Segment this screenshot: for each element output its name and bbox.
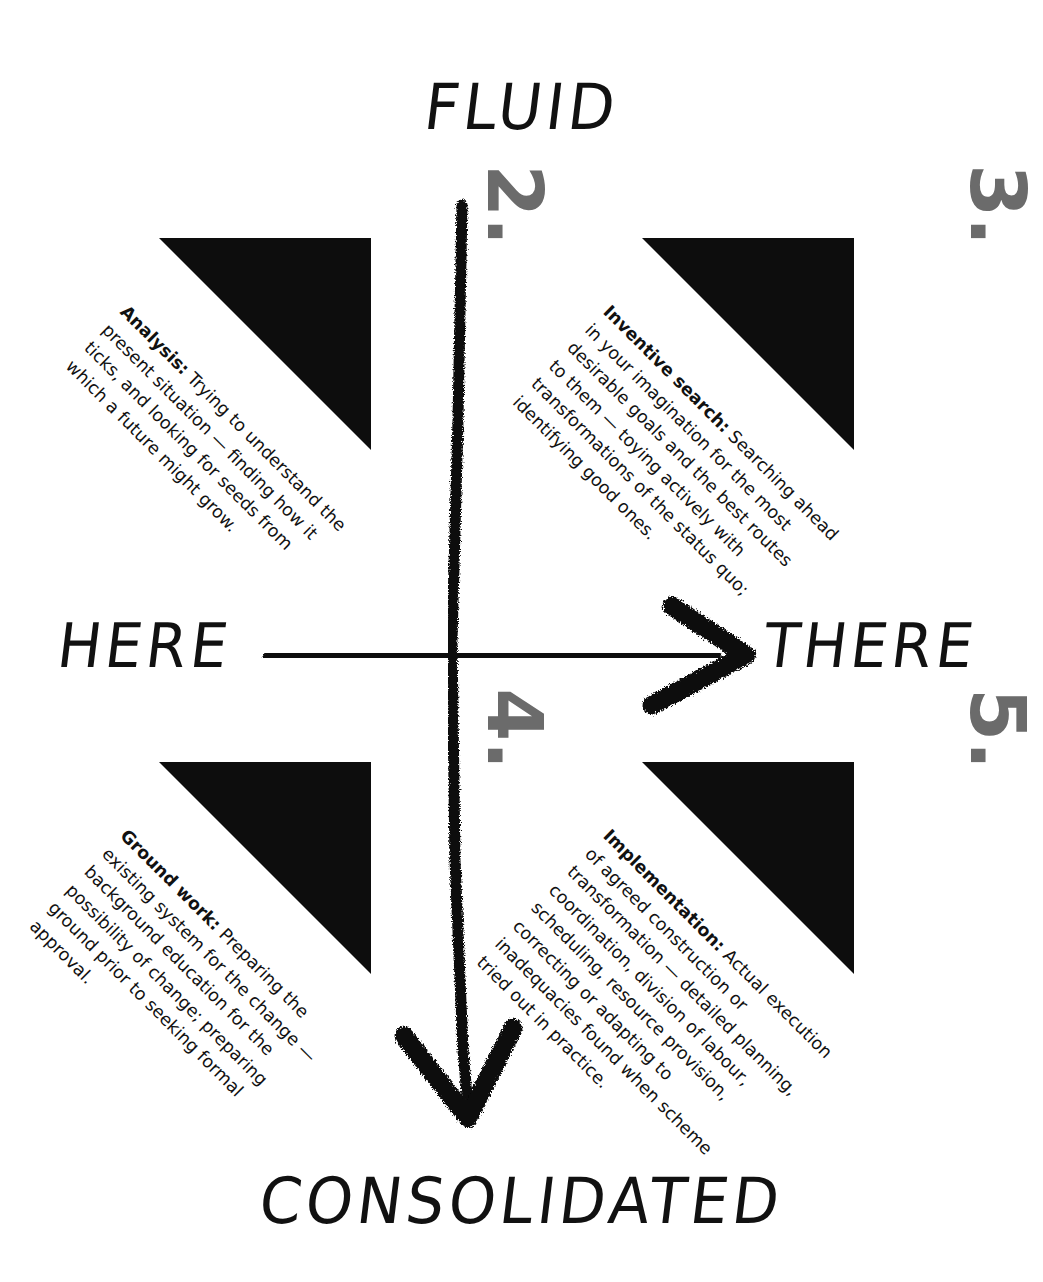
quadrant-analysis: 2. analysis Analysis: Trying to understa… (70, 238, 490, 658)
quadrant-groundwork: 4. groundwork Ground work: Preparing the… (70, 762, 490, 1182)
diagram-canvas: FLUID CONSOLIDATED HERE THERE 2. analysi… (0, 0, 1043, 1282)
axis-label-fluid: FLUID (0, 72, 1043, 142)
quadrant-inventive-search: 3. inventive search Inventive search: Se… (553, 238, 973, 658)
quadrant-implementation: 5. implementation Implementation: Actual… (553, 762, 973, 1182)
